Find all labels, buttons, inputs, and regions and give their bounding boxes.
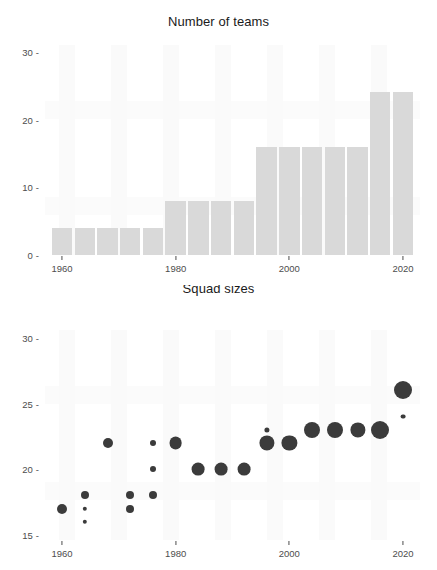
data-point (259, 435, 274, 450)
x-axis-tick-mark (402, 256, 403, 260)
data-point (304, 422, 320, 438)
x-axis-tick-mark (402, 541, 403, 545)
y-axis-tick-label: 30- (22, 46, 39, 57)
x-axis-tick: 1960 (51, 540, 72, 559)
x-axis-tick-label: 1980 (165, 263, 186, 274)
bar (165, 201, 185, 255)
x-axis-tick-label: 1960 (51, 263, 72, 274)
y-axis-tick-label: 0- (28, 250, 39, 261)
plot-area-teams: 0-10-20-30-1960198020002020 (45, 45, 420, 255)
y-axis-tick-label: 20- (22, 464, 39, 475)
y-axis-tick-label: 20- (22, 114, 39, 125)
bar (143, 228, 163, 255)
x-axis-tick: 2020 (392, 540, 413, 559)
data-point (83, 506, 87, 510)
x-axis-tick-mark (62, 256, 63, 260)
y-axis-tick-label: 15- (22, 529, 39, 540)
x-axis-tick: 2000 (279, 540, 300, 559)
bar (393, 92, 413, 255)
bar (302, 147, 322, 255)
bar (347, 147, 367, 255)
data-point (149, 491, 157, 499)
bar (256, 147, 276, 255)
x-axis-tick: 1980 (165, 255, 186, 274)
data-point (150, 440, 156, 446)
x-axis-tick-mark (289, 256, 290, 260)
bar (370, 92, 390, 255)
bar (234, 201, 254, 255)
y-axis-tick-label: 25- (22, 398, 39, 409)
bar (279, 147, 299, 255)
y-axis-tick-label: 30- (22, 332, 39, 343)
bar (75, 228, 95, 255)
data-point (57, 504, 67, 514)
data-point (394, 381, 412, 399)
x-axis-tick: 2000 (279, 255, 300, 274)
data-point (371, 421, 389, 439)
x-axis-tick-label: 2000 (279, 263, 300, 274)
bar (211, 201, 231, 255)
data-point (81, 491, 89, 499)
data-point (169, 436, 182, 449)
data-point (237, 463, 250, 476)
data-point (282, 435, 297, 450)
x-axis-tick-label: 2020 (392, 548, 413, 559)
data-point (126, 505, 134, 513)
x-axis-tick-label: 2000 (279, 548, 300, 559)
panel-squad-sizes: Squad sizes 15-20-25-30-1960198020002020 (0, 285, 437, 570)
data-point (83, 519, 87, 523)
x-axis-tick: 1980 (165, 540, 186, 559)
y-axis-tick-label: 10- (22, 182, 39, 193)
data-point (126, 491, 134, 499)
data-point (192, 463, 205, 476)
x-axis-tick-label: 1980 (165, 548, 186, 559)
data-point (215, 463, 228, 476)
x-axis-tick-mark (62, 541, 63, 545)
chart-title-squads: Squad sizes (0, 285, 437, 296)
x-axis-tick-label: 1960 (51, 548, 72, 559)
x-axis-tick-label: 2020 (392, 263, 413, 274)
x-axis-tick-mark (289, 541, 290, 545)
panel-number-of-teams: Number of teams 0-10-20-30-1960198020002… (0, 0, 437, 285)
x-axis-tick-mark (175, 541, 176, 545)
x-axis-tick-mark (175, 256, 176, 260)
data-point (327, 422, 343, 438)
watermark-texture (45, 330, 420, 540)
x-axis-tick: 2020 (392, 255, 413, 274)
data-point (401, 414, 406, 419)
bar (97, 228, 117, 255)
data-point (103, 438, 113, 448)
bar (120, 228, 140, 255)
bar (188, 201, 208, 255)
data-point (264, 427, 269, 432)
chart-title-teams: Number of teams (0, 14, 437, 29)
bar (52, 228, 72, 255)
plot-area-squads: 15-20-25-30-1960198020002020 (45, 330, 420, 540)
data-point (350, 422, 365, 437)
data-point (150, 466, 156, 472)
x-axis-tick: 1960 (51, 255, 72, 274)
bar (325, 147, 345, 255)
